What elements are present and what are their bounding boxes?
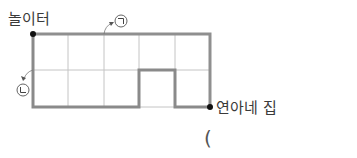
route-b-marker-icon xyxy=(17,70,33,96)
start-dot xyxy=(30,31,36,37)
end-dot xyxy=(207,104,213,110)
route-a-marker-icon xyxy=(104,15,127,34)
grid-lines xyxy=(33,34,210,107)
route-grid-diagram xyxy=(0,0,357,158)
